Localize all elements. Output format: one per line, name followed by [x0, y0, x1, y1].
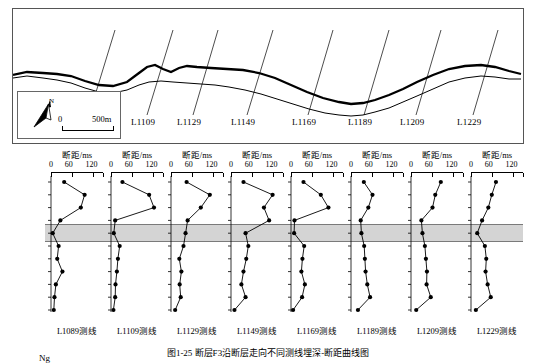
- data-point-Ed_oil_top: [370, 193, 374, 197]
- data-point-Es3-5: [356, 308, 360, 312]
- data-point-Es1: [243, 231, 247, 235]
- data-point-Es2: [57, 244, 61, 248]
- data-point-Ng: [185, 180, 189, 184]
- data-point-Ed: [262, 206, 266, 210]
- data-point-Es3-1: [424, 257, 428, 261]
- data-point-Es3-5: [414, 308, 418, 312]
- panel-survey-line-label: L1209测线: [404, 324, 470, 336]
- panel-survey-line-label: L1149测线: [224, 324, 290, 336]
- survey-line-label-L1129: L1129: [177, 117, 201, 127]
- scale-bar: [62, 126, 114, 131]
- x-tick-label-0: 0: [409, 160, 413, 169]
- panel-survey-line-label: L1169测线: [284, 324, 350, 336]
- data-point-Es1_sup: [113, 218, 117, 222]
- series-polyline: [416, 182, 441, 310]
- data-point-Es3-5: [111, 308, 115, 312]
- x-tick-label-60: 60: [425, 160, 433, 169]
- throw-depth-series-L1169测线: [287, 176, 347, 316]
- profile-panel-L1189测线: 断距/ms060120L1189测线: [347, 148, 407, 334]
- panel-plot-area: [107, 176, 167, 316]
- scale-zero-label: 0: [58, 114, 62, 124]
- data-point-Es3-4: [489, 295, 493, 299]
- throw-depth-series-L1149测线: [227, 176, 287, 316]
- panel-axis-title: 断距/ms: [347, 148, 407, 160]
- throw-depth-series-L1109测线: [107, 176, 167, 316]
- x-tick-label-60: 60: [65, 160, 73, 169]
- panel-plot-area: [287, 176, 347, 316]
- data-point-Ed: [430, 206, 434, 210]
- data-point-Es1_sup: [186, 218, 190, 222]
- data-point-Es3-1: [116, 257, 120, 261]
- x-tick-label-60: 60: [125, 160, 133, 169]
- panel-survey-line-label: L1089测线: [44, 324, 110, 336]
- panel-survey-line-label: L1189测线: [344, 324, 410, 336]
- data-point-Ng: [439, 180, 443, 184]
- data-point-Es3-3: [239, 282, 243, 286]
- data-point-Es3-5: [291, 308, 295, 312]
- data-point-Es3-5: [232, 308, 236, 312]
- data-point-Es1_sup: [292, 218, 296, 222]
- data-point-Es3-1: [177, 257, 181, 261]
- series-polyline: [175, 182, 210, 310]
- series-polyline: [235, 182, 273, 310]
- survey-line-label-L1209: L1209: [400, 117, 425, 127]
- tick-label-row: 060120: [227, 160, 287, 170]
- data-point-Es3-5: [52, 308, 56, 312]
- throw-depth-series-L1129测线: [167, 176, 227, 316]
- figure-caption: 图1-25 断层F3沿断层走向不同测线埋深-断距曲线图: [0, 346, 536, 359]
- profile-panel-L1149测线: 断距/ms060120L1149测线: [227, 148, 287, 334]
- x-tick-label-0: 0: [349, 160, 353, 169]
- data-point-Es2: [423, 244, 427, 248]
- data-point-Ng: [241, 180, 245, 184]
- data-point-Ed: [366, 206, 370, 210]
- data-point-Ed_oil_top: [271, 193, 275, 197]
- throw-depth-series-L1089测线: [47, 176, 107, 316]
- data-point-Es3-1: [300, 257, 304, 261]
- data-point-Es3-3: [54, 282, 58, 286]
- data-point-Es3-2: [483, 270, 487, 274]
- x-tick-label-120: 120: [446, 160, 458, 169]
- data-point-Es3-3: [178, 282, 182, 286]
- data-point-Es3-2: [179, 270, 183, 274]
- north-arrow-icon: N: [24, 96, 58, 134]
- tick-label-row: 060120: [287, 160, 347, 170]
- data-point-Ng: [362, 180, 366, 184]
- x-tick-label-0: 0: [169, 160, 173, 169]
- map-scale-legend-box: N 0 500m: [17, 91, 121, 139]
- panel-plot-area: [407, 176, 467, 316]
- data-point-Es3-2: [241, 270, 245, 274]
- panel-plot-area: [467, 176, 527, 316]
- profile-panel-L1229测线: 断距/ms060120L1229测线: [467, 148, 527, 334]
- scale-bar-group: 0 500m: [58, 114, 118, 134]
- data-point-Es3-4: [179, 295, 183, 299]
- data-point-Es2: [362, 244, 366, 248]
- data-point-Es3-5: [173, 308, 177, 312]
- data-point-Ed_oil_top: [147, 193, 151, 197]
- x-tick-label-120: 120: [86, 160, 98, 169]
- survey-line-label-L1169: L1169: [292, 117, 316, 127]
- data-point-Es1: [420, 231, 424, 235]
- data-point-Es3-1: [244, 257, 248, 261]
- data-point-Ed: [79, 206, 83, 210]
- data-point-Es3-5: [474, 308, 478, 312]
- data-point-Es2: [118, 244, 122, 248]
- data-point-Ed_oil_top: [319, 193, 323, 197]
- panel-axis-title: 断距/ms: [47, 148, 107, 160]
- x-tick-label-60: 60: [305, 160, 313, 169]
- data-point-Es1: [475, 231, 479, 235]
- data-point-Ed: [152, 206, 156, 210]
- data-point-Es3-3: [486, 282, 490, 286]
- survey-line-label-L1229: L1229: [457, 117, 482, 127]
- x-tick-label-0: 0: [49, 160, 53, 169]
- data-point-Ng: [62, 180, 66, 184]
- x-tick-label-120: 120: [146, 160, 158, 169]
- tick-label-row: 060120: [467, 160, 527, 170]
- data-point-Ng: [494, 180, 498, 184]
- data-point-Ng: [120, 180, 124, 184]
- data-point-Ng: [301, 180, 305, 184]
- data-point-Es3-4: [429, 295, 433, 299]
- data-point-Es3-2: [425, 270, 429, 274]
- data-point-Es3-3: [113, 282, 117, 286]
- throw-depth-series-L1209测线: [407, 176, 467, 316]
- panel-axis-title: 断距/ms: [467, 148, 527, 160]
